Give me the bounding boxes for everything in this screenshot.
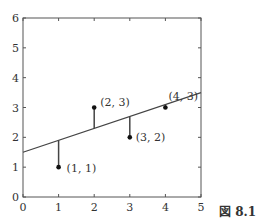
point-label: (2, 3) bbox=[100, 96, 130, 109]
x-tick-label: 4 bbox=[162, 201, 169, 214]
point-label: (3, 2) bbox=[136, 131, 166, 144]
scatter-plot: 0123450123456(1, 1)(2, 3)(3, 2)(4, 3) bbox=[0, 0, 262, 224]
x-tick-label: 1 bbox=[55, 201, 62, 214]
data-point bbox=[163, 105, 168, 110]
x-tick-label: 5 bbox=[198, 201, 205, 214]
y-tick-label: 0 bbox=[12, 191, 19, 204]
figure-label: 図 8.1 bbox=[219, 202, 256, 219]
y-tick-label: 5 bbox=[12, 42, 19, 55]
x-tick-label: 0 bbox=[20, 201, 27, 214]
x-tick-label: 2 bbox=[91, 201, 98, 214]
y-tick-label: 4 bbox=[12, 72, 19, 85]
data-point bbox=[128, 135, 133, 140]
y-tick-label: 2 bbox=[12, 131, 19, 144]
x-tick-label: 3 bbox=[126, 201, 133, 214]
data-point bbox=[56, 165, 61, 170]
y-tick-label: 3 bbox=[12, 102, 19, 115]
point-label: (4, 3) bbox=[168, 90, 198, 103]
y-tick-label: 1 bbox=[12, 161, 19, 174]
data-point bbox=[92, 105, 97, 110]
y-tick-label: 6 bbox=[12, 12, 19, 25]
point-label: (1, 1) bbox=[67, 162, 97, 175]
